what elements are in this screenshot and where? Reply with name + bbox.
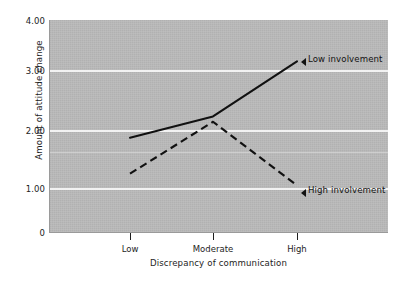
series-label-low-involvement: Low involvement [308,54,383,64]
series-marker-high-involvement [301,189,306,197]
series-marker-low-involvement [301,58,306,66]
chart-figure: 4.00 3.00 2.00 1.00 0 Low Moderate High … [0,0,402,285]
series-label-high-involvement: High involvement [308,185,386,195]
series-line-low-involvement [130,61,297,137]
data-series-layer [0,0,402,285]
